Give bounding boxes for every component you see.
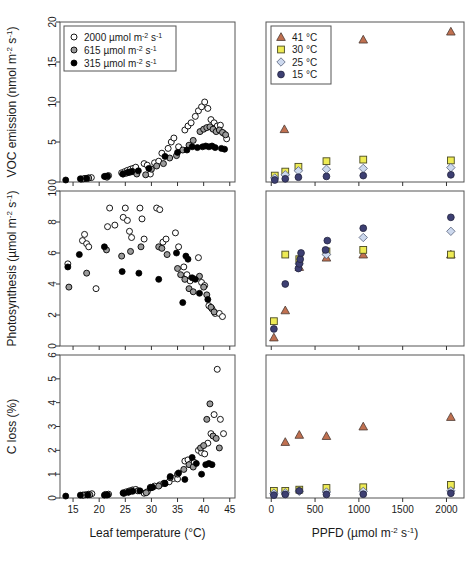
data-point (172, 230, 178, 236)
x-tick-label: 25 (120, 504, 132, 515)
figure-container: 0510152002468100123456152025303540450500… (0, 0, 474, 562)
data-point (84, 270, 90, 276)
data-point (173, 250, 179, 256)
data-point (282, 175, 289, 182)
data-point (360, 172, 367, 179)
data-point (86, 244, 92, 250)
series-25-c (295, 227, 455, 268)
data-point (282, 251, 289, 258)
data-point (159, 245, 165, 251)
data-point (176, 244, 182, 250)
panel-frame-closs-vs-temperature (60, 355, 235, 498)
data-point (156, 276, 162, 282)
panel-frame-photosynthesis-vs-temperature (60, 191, 235, 346)
y-tick-label: 2 (47, 447, 58, 453)
data-point (201, 284, 207, 290)
data-point (193, 460, 199, 466)
data-point (222, 146, 228, 152)
data-point (447, 413, 456, 421)
x-tick-label: 1500 (392, 504, 415, 515)
series-2000-mol-m-2-s-1 (65, 205, 226, 319)
data-point (281, 306, 290, 314)
data-point (360, 156, 367, 163)
scatter-figure: 0510152002468100123456152025303540450500… (0, 0, 474, 562)
data-point (160, 161, 166, 167)
data-point (278, 46, 285, 53)
data-point (63, 177, 69, 183)
data-point (105, 224, 111, 230)
data-point (71, 34, 77, 40)
data-point (192, 276, 198, 282)
y-tick-label: 4 (47, 281, 58, 287)
legend-label-temp-3: 15 °C (292, 69, 317, 80)
data-point (297, 256, 304, 263)
data-point (270, 318, 277, 325)
data-point (162, 153, 168, 159)
data-point (105, 492, 111, 498)
y-axis-title-voc: VOC emission (nmol m-2 s-1) (5, 27, 20, 178)
data-point (107, 205, 113, 211)
data-point (124, 217, 130, 223)
x-axis-title-ppfd: PPFD (µmol m-2 s-1) (312, 526, 419, 541)
x-tick-label: 500 (307, 504, 324, 515)
y-tick-label: 8 (47, 219, 58, 225)
legend-label-temp-2: 25 °C (292, 57, 317, 68)
data-point (447, 27, 456, 35)
data-point (322, 165, 330, 173)
x-axis-title-leaf-temperature: Leaf temperature (°C) (89, 526, 205, 540)
data-point (322, 432, 331, 440)
data-point (359, 233, 367, 241)
data-point (282, 281, 289, 288)
data-point (76, 252, 82, 258)
series-41-c (281, 413, 455, 446)
y-tick-label: 0 (47, 179, 58, 185)
data-point (295, 431, 304, 439)
data-point (324, 237, 331, 244)
data-point (167, 474, 173, 480)
y-tick-label: 20 (47, 16, 58, 28)
data-point (219, 314, 225, 320)
data-point (323, 158, 330, 165)
data-point (176, 470, 182, 476)
data-point (202, 99, 208, 105)
data-point (164, 252, 170, 258)
data-point (296, 487, 303, 494)
data-point (122, 205, 128, 211)
data-point (360, 247, 367, 254)
panel-closs-vs-ppfd: 0500100015002000 (266, 355, 464, 515)
data-point (280, 125, 289, 133)
data-point (138, 244, 144, 250)
data-point (359, 422, 368, 430)
data-point (447, 490, 454, 497)
y-tick-label: 2 (47, 312, 58, 318)
data-point (211, 309, 217, 315)
y-tick-label: 1 (47, 471, 58, 477)
data-point (447, 157, 454, 164)
data-point (188, 120, 194, 126)
data-point (278, 71, 285, 78)
data-point (196, 290, 202, 296)
data-point (149, 484, 155, 490)
data-point (119, 253, 125, 259)
data-point (447, 251, 454, 258)
series-2000-mol-m-2-s-1 (79, 366, 226, 498)
series-15-c (270, 214, 454, 332)
data-point (126, 228, 132, 234)
y-tick-label: 6 (47, 250, 58, 256)
data-point (322, 247, 329, 254)
x-tick-label: 0 (268, 504, 274, 515)
data-point (199, 471, 205, 477)
data-point (298, 250, 305, 257)
y-tick-label: 5 (47, 376, 58, 382)
data-point (223, 132, 229, 138)
panel-photosynthesis-vs-ppfd (266, 191, 464, 350)
y-axis-title-photosynthesis: Photosynthesis (µmol m-2 s-1) (5, 191, 20, 347)
series-615-mol-m-2-s-1 (81, 124, 229, 182)
data-point (295, 174, 302, 181)
data-point (209, 462, 215, 468)
legend-label-light-1: 615 µmol m-2 s-1 (84, 44, 157, 56)
light-level-legend: 2000 µmol m-2 s-1615 µmol m-2 s-1315 µmo… (64, 26, 176, 71)
x-tick-label: 40 (198, 504, 210, 515)
data-point (65, 264, 71, 270)
data-point (221, 431, 227, 437)
